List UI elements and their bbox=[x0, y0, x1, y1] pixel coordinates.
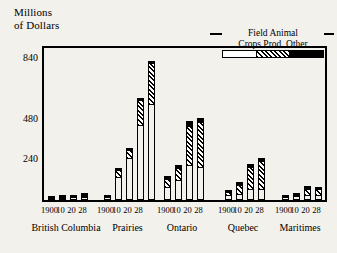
bar-segment-other bbox=[225, 190, 232, 192]
bar-segment-field-crops bbox=[225, 196, 232, 200]
bar[interactable] bbox=[293, 193, 300, 200]
bar-group-ontario bbox=[164, 48, 208, 200]
bar[interactable] bbox=[59, 196, 66, 200]
bar[interactable] bbox=[186, 121, 193, 200]
bar-segment-other bbox=[164, 176, 171, 179]
x-tick-prairies-28: 28 bbox=[128, 206, 150, 215]
bar-segment-animal-prod bbox=[225, 192, 232, 197]
x-tick-ontario-28: 28 bbox=[188, 206, 210, 215]
bar-segment-animal-prod bbox=[164, 179, 171, 188]
bar-segment-other bbox=[186, 121, 193, 126]
bar-segment-field-crops bbox=[48, 199, 55, 200]
bar[interactable] bbox=[137, 98, 144, 200]
bar-segment-other bbox=[70, 195, 77, 197]
legend-rule-left bbox=[210, 33, 222, 35]
y-axis-title-line-1: Millions bbox=[14, 6, 59, 19]
y-tick-480: 480 bbox=[4, 114, 38, 124]
bar-segment-field-crops bbox=[186, 166, 193, 200]
bar-group-british-columbia bbox=[48, 48, 92, 200]
bar-segment-field-crops bbox=[236, 195, 243, 200]
bar-segment-other bbox=[197, 118, 204, 123]
bar[interactable] bbox=[115, 168, 122, 200]
region-label-maritimes: Maritimes bbox=[255, 222, 337, 233]
bar[interactable] bbox=[175, 165, 182, 200]
bar-segment-other bbox=[148, 61, 155, 64]
bar-segment-animal-prod bbox=[197, 122, 204, 168]
bar-segment-other bbox=[137, 98, 144, 100]
bar-segment-animal-prod bbox=[236, 185, 243, 195]
bar-segment-field-crops bbox=[293, 197, 300, 200]
bar-segment-field-crops bbox=[258, 190, 265, 200]
bar[interactable] bbox=[197, 118, 204, 200]
bar[interactable] bbox=[104, 196, 111, 200]
bar-segment-field-crops bbox=[164, 188, 171, 200]
y-tick-240: 240 bbox=[4, 154, 38, 164]
bar-segment-other bbox=[104, 195, 111, 197]
bar-group-quebec bbox=[225, 48, 269, 200]
bar-segment-field-crops bbox=[197, 168, 204, 200]
bar[interactable] bbox=[48, 197, 55, 200]
bar-segment-other bbox=[236, 182, 243, 184]
bar-segment-field-crops bbox=[304, 196, 311, 200]
bar[interactable] bbox=[126, 148, 133, 200]
y-tick-840: 840 bbox=[4, 53, 38, 63]
bar[interactable] bbox=[258, 158, 265, 200]
bar[interactable] bbox=[315, 187, 322, 200]
bar[interactable] bbox=[304, 186, 311, 200]
bar-segment-animal-prod bbox=[126, 150, 133, 160]
bar-segment-other bbox=[293, 193, 300, 195]
bar-segment-animal-prod bbox=[258, 161, 265, 190]
bar[interactable] bbox=[282, 195, 289, 200]
bar-segment-animal-prod bbox=[81, 196, 88, 198]
y-axis-title-line-2: of Dollars bbox=[14, 19, 59, 32]
bar-segment-field-crops bbox=[148, 105, 155, 200]
bars-layer bbox=[44, 48, 325, 200]
bar-segment-field-crops bbox=[315, 196, 322, 200]
legend-rule-right bbox=[324, 33, 334, 35]
x-tick-british-columbia-28: 28 bbox=[72, 206, 94, 215]
bar-segment-field-crops bbox=[126, 159, 133, 200]
bar-segment-other bbox=[115, 168, 122, 170]
bar-segment-other bbox=[81, 193, 88, 196]
bar-segment-other bbox=[258, 158, 265, 161]
bar-segment-other bbox=[304, 186, 311, 188]
bar-segment-field-crops bbox=[115, 178, 122, 200]
bar-segment-other bbox=[282, 195, 289, 197]
bar-segment-field-crops bbox=[70, 198, 77, 200]
bar-segment-other bbox=[315, 187, 322, 189]
bar-segment-other bbox=[175, 165, 182, 168]
bar[interactable] bbox=[148, 61, 155, 201]
bar-segment-other bbox=[59, 195, 66, 197]
x-tick-maritimes-28: 28 bbox=[306, 206, 328, 215]
bar-segment-other bbox=[126, 148, 133, 150]
bar-segment-field-crops bbox=[104, 198, 111, 200]
bar[interactable] bbox=[164, 176, 171, 200]
legend-heading-row-1: Field Animal bbox=[222, 28, 324, 39]
bar-segment-field-crops bbox=[282, 198, 289, 200]
bar-segment-field-crops bbox=[137, 126, 144, 200]
bar-segment-animal-prod bbox=[137, 100, 144, 125]
bar[interactable] bbox=[247, 164, 254, 200]
bar-segment-field-crops bbox=[247, 190, 254, 200]
bar-segment-animal-prod bbox=[175, 168, 182, 181]
bar-group-prairies bbox=[104, 48, 159, 200]
bar[interactable] bbox=[225, 190, 232, 200]
bar[interactable] bbox=[70, 195, 77, 200]
x-tick-quebec-28: 28 bbox=[249, 206, 271, 215]
bar-segment-animal-prod bbox=[186, 126, 193, 167]
bar-segment-animal-prod bbox=[115, 170, 122, 178]
bar-segment-field-crops bbox=[59, 199, 66, 200]
bar-segment-animal-prod bbox=[247, 167, 254, 190]
bar-segment-animal-prod bbox=[315, 189, 322, 196]
bar-group-maritimes bbox=[282, 48, 326, 200]
bar-segment-other bbox=[247, 164, 254, 167]
bar[interactable] bbox=[81, 193, 88, 200]
bar-segment-animal-prod bbox=[148, 63, 155, 105]
bar[interactable] bbox=[236, 182, 243, 200]
bar-segment-field-crops bbox=[175, 181, 182, 200]
bar-segment-animal-prod bbox=[304, 189, 311, 196]
bar-segment-animal-prod bbox=[293, 195, 300, 197]
bar-segment-field-crops bbox=[81, 198, 88, 200]
y-axis-title: Millions of Dollars bbox=[14, 6, 59, 31]
plot-area bbox=[42, 46, 327, 202]
